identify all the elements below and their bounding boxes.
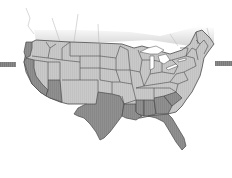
- us-map: [0, 0, 232, 178]
- arrow-bar-left-icon: [0, 62, 16, 67]
- lake-michigan: [150, 56, 154, 70]
- state-arizona: [46, 80, 62, 102]
- state-mississippi: [136, 100, 144, 116]
- arrow-bar-right-icon: [215, 61, 232, 66]
- us-map-svg: [0, 0, 232, 178]
- state-florida: [148, 114, 186, 150]
